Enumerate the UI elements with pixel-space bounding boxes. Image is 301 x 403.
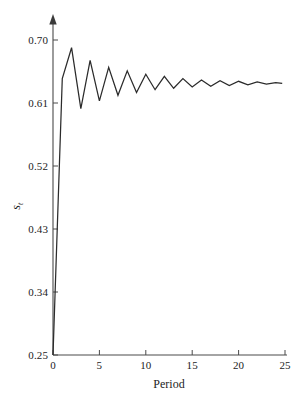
y-tick-label-3: 0.52 — [16, 161, 48, 172]
x-axis-title: Period — [153, 377, 184, 392]
x-tick-label-5: 25 — [279, 360, 290, 371]
y-axis-ticks — [53, 40, 58, 355]
y-axis-title: st — [9, 195, 25, 217]
chart-plot-area — [0, 0, 301, 403]
axes-group — [49, 14, 287, 355]
y-tick-label-1: 0.34 — [16, 287, 48, 298]
x-tick-label-4: 20 — [233, 360, 244, 371]
y-tick-label-5: 0.70 — [16, 35, 48, 46]
chart-figure: 0.70 0.61 0.52 0.43 0.34 0.25 0 5 10 15 … — [0, 0, 301, 403]
y-tick-label-0: 0.25 — [16, 350, 48, 361]
x-tick-label-3: 15 — [187, 360, 198, 371]
x-axis-ticks — [53, 350, 285, 355]
x-tick-label-2: 10 — [140, 360, 151, 371]
x-tick-label-1: 5 — [97, 360, 103, 371]
x-tick-label-0: 0 — [50, 360, 56, 371]
y-tick-label-4: 0.61 — [16, 98, 48, 109]
y-axis-title-subscript: t — [16, 203, 25, 205]
y-tick-label-2: 0.43 — [16, 224, 48, 235]
y-axis-title-symbol: s — [9, 205, 23, 210]
y-axis-arrow-icon — [49, 14, 56, 25]
series-line-st — [53, 48, 282, 355]
